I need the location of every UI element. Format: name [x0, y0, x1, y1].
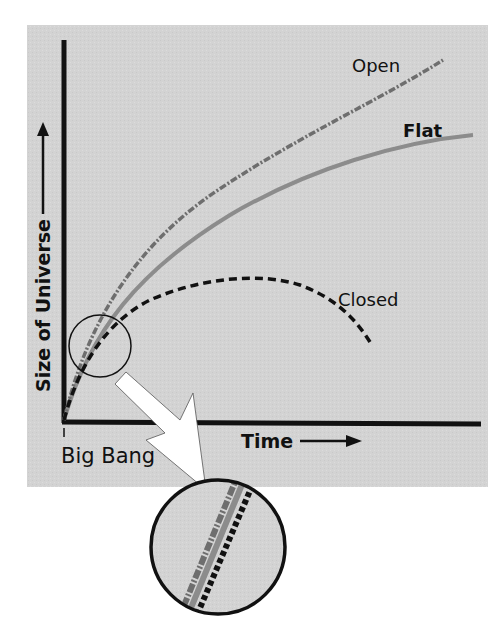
- x-axis: [62, 422, 481, 424]
- closed-label: Closed: [338, 289, 398, 310]
- big-bang-label: Big Bang: [61, 444, 155, 468]
- diagram-panel: [27, 25, 488, 487]
- magnified-inset: [151, 470, 285, 622]
- flat-label: Flat: [403, 120, 443, 141]
- open-label: Open: [352, 55, 400, 76]
- x-axis-label: Time: [241, 430, 293, 452]
- universe-expansion-diagram: Open Flat Closed Size of Universe Time B…: [0, 0, 504, 632]
- y-axis-label: Size of Universe: [32, 219, 54, 392]
